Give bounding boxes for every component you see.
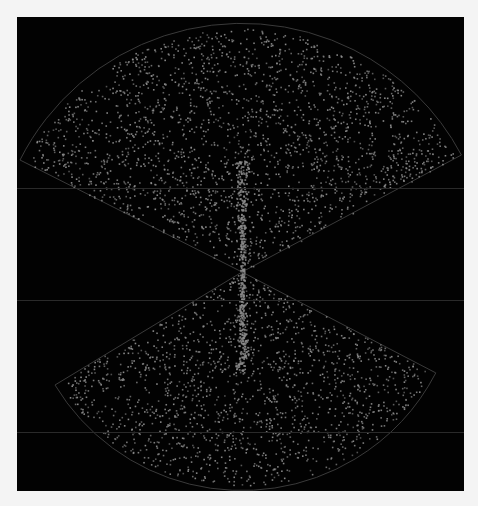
guide-line-2 [17,300,464,301]
guide-line-3 [17,432,464,433]
survey-plot-panel [17,17,464,491]
galaxy-cone-plot [17,17,464,491]
guide-line-1 [17,188,464,189]
